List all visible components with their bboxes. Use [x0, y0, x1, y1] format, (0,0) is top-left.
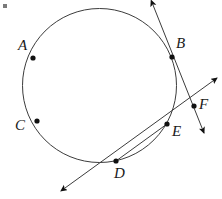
- point-dot-f: [191, 103, 196, 108]
- point-label-f: F: [199, 97, 208, 112]
- point-label-b: B: [176, 36, 185, 51]
- point-label-d: D: [114, 166, 125, 181]
- secant-line-through-D-E-and-F: [65, 78, 217, 188]
- tangent-line-through-B-and-F: [153, 5, 204, 133]
- circle-group: [23, 9, 177, 163]
- point-dots-group: [30, 54, 196, 163]
- main-circle: [23, 9, 177, 163]
- chord-from-D-to-E: [116, 124, 167, 161]
- point-dot-a: [30, 55, 35, 60]
- point-label-c: C: [15, 118, 25, 133]
- point-dot-c: [34, 118, 39, 123]
- point-label-e: E: [172, 124, 181, 139]
- point-dot-e: [164, 121, 169, 126]
- point-dot-b: [169, 54, 174, 59]
- point-dot-d: [113, 158, 118, 163]
- geometry-figure: ABCDEF: [0, 0, 222, 199]
- geometry-drawing-canvas: [0, 0, 222, 199]
- scan-artifact: [3, 4, 7, 8]
- point-label-a: A: [18, 38, 27, 53]
- lines-group: [65, 5, 217, 188]
